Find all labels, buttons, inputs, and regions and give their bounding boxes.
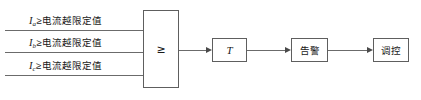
input-line-phase-b	[5, 52, 144, 53]
input-label-phase-b: Ib≥电流越限定值	[29, 37, 102, 52]
threshold-label-phase-c: 电流越限定值	[42, 60, 102, 71]
connector-alarm-to-control	[328, 50, 368, 51]
timer-block-label: T	[226, 44, 232, 56]
connector-timer-to-alarm	[247, 50, 286, 51]
connector-comparator-to-timer	[179, 50, 207, 51]
control-block: 调控	[373, 38, 409, 62]
alarm-block: 告警	[291, 38, 328, 62]
control-block-label: 调控	[381, 43, 401, 57]
input-label-phase-a: Ia≥电流越限定值	[29, 15, 102, 30]
threshold-label-phase-b: 电流越限定值	[42, 37, 102, 48]
comparator-block-label: ≥	[156, 43, 165, 56]
current-overlimit-logic-diagram: Ia≥电流越限定值 Ib≥电流越限定值 Ic≥电流越限定值 ≥ T 告警 调控	[0, 0, 421, 100]
input-label-phase-c: Ic≥电流越限定值	[29, 60, 102, 75]
alarm-block-label: 告警	[300, 43, 320, 57]
timer-block: T	[212, 38, 247, 62]
input-row-phase-b: Ib≥电流越限定值	[5, 31, 144, 53]
input-row-phase-a: Ia≥电流越限定值	[5, 9, 144, 31]
threshold-label-phase-a: 电流越限定值	[42, 15, 102, 26]
input-row-phase-c: Ic≥电流越限定值	[5, 54, 144, 76]
comparator-block: ≥	[143, 10, 179, 88]
input-line-phase-c	[5, 75, 144, 76]
